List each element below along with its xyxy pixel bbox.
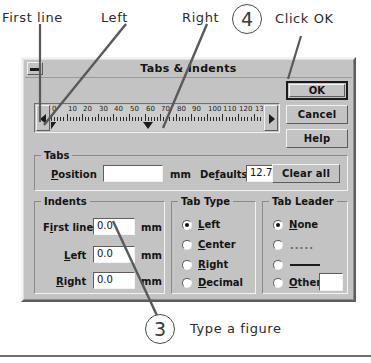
radio-tab-type-decimal-label: Decimal	[198, 277, 243, 288]
radio-tab-type-left[interactable]	[182, 220, 192, 230]
ruler-major-tick	[222, 114, 223, 121]
ruler-minor-tick	[85, 117, 86, 121]
ruler-major-tick	[82, 114, 83, 121]
step-number-3: 3	[145, 314, 175, 344]
ruler-minor-tick	[198, 117, 199, 121]
ruler-minor-tick	[251, 117, 252, 121]
radio-tab-type-decimal[interactable]	[182, 278, 192, 288]
page-bottom-rule	[0, 355, 371, 357]
solid-leader-icon	[290, 264, 320, 266]
ruler-minor-tick	[70, 117, 71, 121]
ruler-minor-tick	[210, 117, 211, 121]
ruler-minor-tick	[182, 117, 183, 121]
ruler-minor-tick	[216, 117, 217, 121]
ruler-scroll-right-button[interactable]	[264, 105, 278, 131]
right-indent-marker[interactable]	[143, 122, 153, 129]
ruler-minor-tick	[76, 117, 77, 121]
ruler-scroll-left-button[interactable]	[36, 105, 50, 131]
radio-tab-type-center-label: Center	[198, 239, 236, 250]
dialog-title: Tabs & Indents	[25, 62, 352, 75]
radio-tab-type-right[interactable]	[182, 260, 192, 270]
radio-tab-leader-none[interactable]	[273, 220, 283, 230]
defaults-label: Defaults	[200, 169, 247, 180]
ruler-major-tick	[207, 114, 208, 121]
ruler-minor-tick	[241, 117, 242, 121]
left-indent-label: Left	[64, 250, 86, 261]
ruler-minor-tick	[194, 117, 195, 121]
ruler-major-tick	[254, 114, 255, 121]
ruler-tick-label: 30	[99, 105, 108, 114]
ruler-minor-tick	[226, 117, 227, 121]
position-input[interactable]	[103, 165, 163, 182]
ruler-minor-tick	[260, 117, 261, 121]
ruler-minor-tick	[60, 117, 61, 121]
ruler-minor-tick	[95, 117, 96, 121]
ruler-minor-tick	[232, 117, 233, 121]
ruler-minor-tick	[101, 117, 102, 121]
ruler-major-tick	[191, 114, 192, 121]
tab-leader-other-input[interactable]	[319, 273, 343, 291]
radio-tab-type-center[interactable]	[182, 240, 192, 250]
ruler-minor-tick	[63, 117, 64, 121]
ruler-minor-tick	[73, 117, 74, 121]
first-line-input[interactable]: 0.0	[93, 218, 135, 235]
ruler-minor-tick	[185, 117, 186, 121]
annotation-first-line: First line	[2, 10, 63, 25]
ruler-minor-tick	[79, 117, 80, 121]
radio-tab-leader-none-label: None	[289, 219, 318, 230]
ruler-minor-tick	[132, 117, 133, 121]
ruler-minor-tick	[157, 117, 158, 121]
tab-type-group-title: Tab Type	[178, 196, 233, 207]
dotted-leader-icon: .....	[290, 240, 314, 251]
radio-tab-leader-other[interactable]	[273, 278, 283, 288]
ruler-minor-tick	[166, 117, 167, 121]
tabs-and-indents-dialog: Tabs & Indents 0102030405060708090100110…	[21, 57, 356, 302]
ruler-major-tick	[160, 114, 161, 121]
indent-ruler[interactable]: 0102030405060708090100110120130	[34, 103, 280, 133]
help-button[interactable]: Help	[286, 129, 348, 148]
ruler-minor-tick	[247, 117, 248, 121]
ruler-minor-tick	[92, 117, 93, 121]
left-indent-marker[interactable]	[51, 122, 56, 129]
ruler-minor-tick	[123, 117, 124, 121]
left-indent-input[interactable]: 0.0	[93, 246, 135, 263]
ruler-tick-label: 50	[130, 105, 139, 114]
ruler-major-tick	[238, 114, 239, 121]
ruler-tick-label: 40	[114, 105, 123, 114]
ruler-major-tick	[98, 114, 99, 121]
ruler-minor-tick	[204, 117, 205, 121]
ruler-minor-tick	[219, 117, 220, 121]
ok-button[interactable]: OK	[286, 81, 348, 100]
ruler-tick-label: 60	[146, 105, 155, 114]
clear-all-button[interactable]: Clear all	[272, 164, 340, 183]
ruler-minor-tick	[126, 117, 127, 121]
ruler-minor-tick	[163, 117, 164, 121]
ruler-minor-tick	[135, 117, 136, 121]
right-indent-input[interactable]: 0.0	[93, 272, 135, 289]
ruler-minor-tick	[138, 117, 139, 121]
ruler-minor-tick	[107, 117, 108, 121]
ruler-minor-tick	[148, 117, 149, 121]
ruler-tick-label: 110	[223, 105, 236, 114]
ruler-major-tick	[129, 114, 130, 121]
ruler-minor-tick	[229, 117, 230, 121]
ruler-tick-label: 80	[177, 105, 186, 114]
radio-tab-leader-solid[interactable]	[273, 260, 283, 270]
ruler-scale[interactable]: 0102030405060708090100110120130	[51, 105, 263, 131]
ruler-minor-tick	[169, 117, 170, 121]
ruler-minor-tick	[257, 117, 258, 121]
triangle-left-icon	[40, 114, 46, 124]
ruler-major-tick	[176, 114, 177, 121]
tab-type-group: Tab Type Left Center Right Decimal	[171, 201, 256, 294]
tab-leader-group: Tab Leader None ..... Other	[262, 201, 348, 294]
radio-tab-leader-dotted[interactable]	[273, 240, 283, 250]
dialog-titlebar[interactable]: Tabs & Indents	[25, 61, 352, 78]
position-unit-label: mm	[170, 169, 191, 180]
indents-group-title: Indents	[41, 196, 90, 207]
help-button-label: Help	[304, 133, 331, 144]
ruler-minor-tick	[141, 117, 142, 121]
first-line-label: First line	[43, 222, 93, 233]
ruler-minor-tick	[120, 117, 121, 121]
radio-tab-type-right-label: Right	[198, 259, 228, 270]
cancel-button[interactable]: Cancel	[286, 105, 348, 124]
